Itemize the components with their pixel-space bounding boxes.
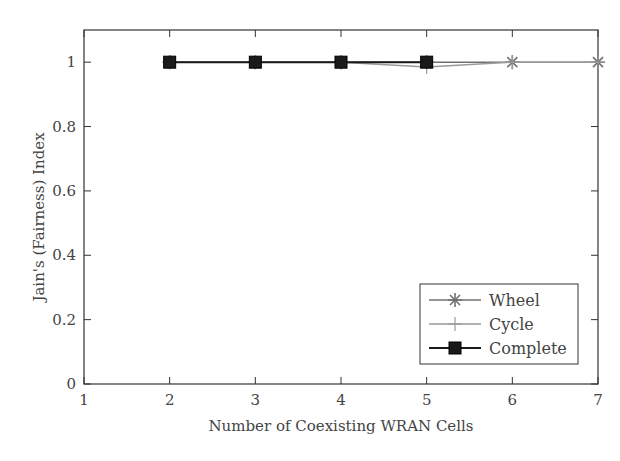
legend-label: Cycle: [489, 315, 534, 334]
x-tick-label: 6: [508, 391, 518, 409]
series-cycle: [163, 55, 605, 74]
x-tick-label: 2: [165, 391, 175, 409]
y-tick-label: 1: [66, 53, 76, 71]
y-tick-label: 0.4: [52, 246, 76, 264]
x-axis-label: Number of Coexisting WRAN Cells: [208, 417, 473, 435]
legend-label: Complete: [489, 339, 567, 358]
y-axis-label: Jain's (Fairness) Index: [30, 132, 48, 304]
series-complete: [164, 56, 433, 68]
line-chart: 123456700.20.40.60.81Number of Coexistin…: [0, 0, 620, 461]
x-tick-label: 5: [422, 391, 432, 409]
y-tick-label: 0.8: [52, 118, 76, 136]
x-tick-label: 7: [593, 391, 603, 409]
x-tick-label: 4: [336, 391, 346, 409]
x-tick-label: 3: [251, 391, 261, 409]
legend: WheelCycleComplete: [420, 284, 578, 364]
y-tick-label: 0: [66, 375, 76, 393]
legend-label: Wheel: [489, 291, 540, 310]
y-tick-label: 0.6: [52, 182, 76, 200]
x-tick-label: 1: [79, 391, 89, 409]
y-tick-label: 0.2: [52, 311, 76, 329]
